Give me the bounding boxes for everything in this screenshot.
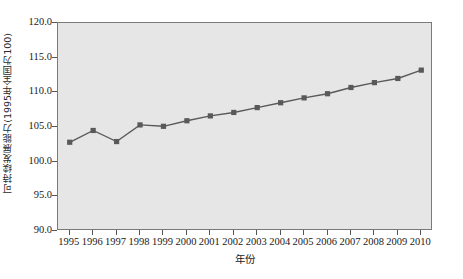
x-axis-title: 年份 bbox=[57, 251, 432, 266]
data-point-marker bbox=[137, 122, 142, 127]
data-point-marker bbox=[91, 128, 96, 133]
data-point-marker bbox=[395, 76, 400, 81]
x-axis-tick-label: 2010 bbox=[400, 236, 440, 247]
series-line bbox=[70, 70, 422, 142]
x-axis-tick-mark bbox=[373, 230, 374, 235]
y-axis-tick-label: 120.0 bbox=[16, 17, 52, 27]
y-axis-tick-label: 115.0 bbox=[16, 52, 52, 62]
y-axis-tick-label: 105.0 bbox=[16, 121, 52, 131]
x-axis-tick-mark bbox=[186, 230, 187, 235]
x-axis-tick-mark bbox=[233, 230, 234, 235]
x-axis-tick-mark bbox=[116, 230, 117, 235]
y-axis-tick-label: 110.0 bbox=[16, 86, 52, 96]
series-markers bbox=[67, 68, 424, 145]
series-line-chart bbox=[58, 23, 432, 230]
page-caption bbox=[0, 270, 463, 279]
data-point-marker bbox=[114, 139, 119, 144]
y-axis-tick-label: 100.0 bbox=[16, 156, 52, 166]
data-point-marker bbox=[67, 140, 72, 145]
x-axis-tick-mark bbox=[256, 230, 257, 235]
data-point-marker bbox=[372, 80, 377, 85]
data-point-marker bbox=[419, 68, 424, 73]
x-axis-tick-mark bbox=[162, 230, 163, 235]
data-point-marker bbox=[301, 95, 306, 100]
data-point-marker bbox=[208, 113, 213, 118]
x-axis-tick-mark bbox=[327, 230, 328, 235]
y-axis-tick-label: 90.0 bbox=[16, 225, 52, 235]
x-axis-tick-mark bbox=[139, 230, 140, 235]
y-axis-tick-mark bbox=[52, 230, 57, 231]
x-axis-tick-mark bbox=[280, 230, 281, 235]
data-point-marker bbox=[348, 85, 353, 90]
x-axis-tick-mark bbox=[69, 230, 70, 235]
data-point-marker bbox=[325, 91, 330, 96]
data-point-marker bbox=[184, 118, 189, 123]
x-axis-tick-mark bbox=[420, 230, 421, 235]
x-axis-tick-mark bbox=[350, 230, 351, 235]
data-point-marker bbox=[255, 105, 260, 110]
x-axis-tick-mark bbox=[397, 230, 398, 235]
x-axis-tick-mark bbox=[209, 230, 210, 235]
x-axis-tick-mark bbox=[303, 230, 304, 235]
y-axis-title-text: 可持续发展能力(1995年全国为100) bbox=[1, 33, 15, 193]
data-point-marker bbox=[278, 100, 283, 105]
y-axis-tick-label: 95.0 bbox=[16, 190, 52, 200]
y-axis-tick-labels: 120.0115.0110.0105.0100.095.090.0 bbox=[14, 0, 52, 279]
data-point-marker bbox=[231, 110, 236, 115]
chart-figure: 可持续发展能力(1995年全国为100) 120.0115.0110.0105.… bbox=[0, 0, 463, 279]
x-axis-tick-mark bbox=[92, 230, 93, 235]
plot-area bbox=[57, 22, 432, 230]
data-point-marker bbox=[161, 124, 166, 129]
